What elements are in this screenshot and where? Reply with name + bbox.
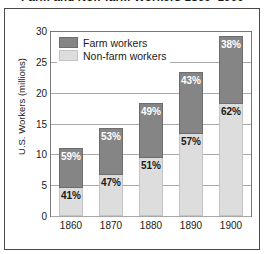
bar-segment-label-non-farm: 62%: [220, 106, 241, 117]
bar-group[interactable]: 41%59%: [59, 148, 82, 216]
y-axis-tick-label: 30: [36, 26, 47, 37]
bar-segment-label-non-farm: 57%: [180, 136, 201, 147]
bar-group[interactable]: 51%49%: [139, 103, 162, 216]
y-axis-tick-label: 20: [36, 87, 47, 98]
legend-swatch-non-farm-icon: [59, 50, 78, 61]
y-axis-tick-label: 0: [41, 211, 47, 222]
legend-item-farm-workers: Farm workers: [59, 36, 166, 49]
bar-segment-farm[interactable]: 59%: [59, 148, 82, 188]
bar-segment-label-farm: 59%: [60, 151, 81, 162]
bar-group[interactable]: 47%53%: [99, 128, 122, 216]
chart-figure: Farm and Non-farm Workers 1860–1900 U.S.…: [0, 0, 265, 254]
x-axis-tick-label: 1880: [139, 220, 162, 231]
chart-legend: Farm workers Non-farm workers: [57, 34, 170, 64]
bar-segment-label-farm: 43%: [180, 75, 201, 86]
y-axis-tick-label: 5: [41, 180, 47, 191]
y-axis-title: U.S. Workers (millions): [16, 37, 27, 177]
bar-segment-label-non-farm: 47%: [100, 177, 121, 188]
bar-segment-non-farm[interactable]: 51%: [139, 158, 162, 216]
y-axis-tick-label: 25: [36, 56, 47, 67]
bar-segment-non-farm[interactable]: 57%: [179, 134, 202, 216]
bar-segment-non-farm[interactable]: 62%: [219, 104, 242, 216]
bar-segment-label-farm: 38%: [220, 39, 241, 50]
bar-segment-label-farm: 49%: [140, 106, 161, 117]
x-axis-tick-label: 1890: [179, 220, 202, 231]
bar-segment-label-non-farm: 41%: [60, 190, 81, 201]
x-axis-tick-label: 1870: [99, 220, 122, 231]
legend-swatch-farm-icon: [59, 37, 78, 48]
x-axis-tick-label: 1860: [59, 220, 82, 231]
bar-segment-farm[interactable]: 38%: [219, 36, 242, 104]
y-axis-tick-label: 10: [36, 149, 47, 160]
bar-segment-label-non-farm: 51%: [140, 160, 161, 171]
bar-segment-label-farm: 53%: [100, 131, 121, 142]
bar-group[interactable]: 62%38%: [219, 36, 242, 216]
bar-segment-farm[interactable]: 43%: [179, 72, 202, 134]
bar-segment-non-farm[interactable]: 41%: [59, 188, 82, 216]
chart-outer-frame: U.S. Workers (millions) 051015202530 41%…: [4, 8, 260, 250]
bar-segment-non-farm[interactable]: 47%: [99, 175, 122, 216]
bar-group[interactable]: 57%43%: [179, 72, 202, 216]
gridline: 0: [51, 216, 251, 217]
chart-title: Farm and Non-farm Workers 1860–1900: [0, 0, 265, 3]
y-axis-tick-label: 15: [36, 118, 47, 129]
legend-label-farm-workers: Farm workers: [83, 37, 147, 49]
bar-segment-farm[interactable]: 49%: [139, 103, 162, 159]
legend-label-non-farm-workers: Non-farm workers: [83, 50, 166, 62]
legend-item-non-farm-workers: Non-farm workers: [59, 49, 166, 62]
bar-segment-farm[interactable]: 53%: [99, 128, 122, 174]
x-axis-tick-label: 1900: [219, 220, 242, 231]
